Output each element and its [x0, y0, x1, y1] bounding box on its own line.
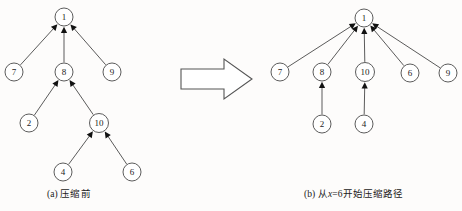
arrowhead-4-to-10 — [87, 131, 93, 138]
node-9: 9 — [439, 64, 457, 82]
node-label-1: 1 — [62, 12, 67, 22]
node-label-8: 8 — [320, 67, 325, 77]
node-6: 6 — [401, 64, 419, 82]
transition-arrow-layer — [181, 59, 252, 99]
node-2: 2 — [313, 115, 331, 133]
node-label-9: 9 — [446, 68, 451, 78]
node-8: 8 — [313, 63, 331, 81]
figure-canvas: 178921046178106924 — [0, 0, 462, 211]
node-label-1: 1 — [362, 13, 367, 23]
node-label-2: 2 — [320, 119, 325, 129]
node-label-7: 7 — [12, 67, 17, 77]
node-label-6: 6 — [130, 167, 135, 177]
edge-10-to-8 — [72, 84, 93, 115]
node-4: 4 — [54, 163, 72, 181]
caption-panel-b: (b) 从x=6开始压缩路径 — [304, 186, 403, 200]
arrowhead-2-to-8 — [52, 80, 58, 87]
node-6: 6 — [123, 163, 141, 181]
node-10: 10 — [356, 63, 375, 82]
arrowhead-8-to-1 — [61, 27, 67, 33]
node-2: 2 — [20, 114, 38, 132]
node-label-2: 2 — [27, 118, 32, 128]
edge-9-to-1 — [74, 28, 106, 65]
node-10: 10 — [90, 114, 109, 133]
node-label-10: 10 — [361, 67, 371, 77]
node-1: 1 — [355, 9, 373, 27]
node-1: 1 — [55, 8, 73, 26]
edge-6-to-1 — [373, 29, 404, 66]
node-8: 8 — [55, 63, 73, 81]
arrowhead-10-to-8 — [70, 80, 76, 87]
node-label-6: 6 — [408, 68, 413, 78]
edge-4-to-10 — [364, 87, 365, 114]
node-label-10: 10 — [95, 118, 105, 128]
edge-10-to-1 — [364, 33, 365, 62]
node-9: 9 — [103, 63, 121, 81]
caption-b-pre: 从 — [318, 189, 328, 199]
node-label-4: 4 — [61, 167, 66, 177]
arrowhead-2-to-8 — [319, 82, 325, 88]
edge-7-to-1 — [20, 28, 54, 65]
caption-panel-a: (a) 压缩前 — [47, 186, 91, 200]
node-4: 4 — [355, 115, 373, 133]
caption-b-post: =6开始压缩路径 — [332, 189, 403, 199]
edge-6-to-10 — [107, 135, 126, 164]
node-label-4: 4 — [362, 119, 367, 129]
node-7: 7 — [5, 63, 23, 81]
node-label-7: 7 — [278, 67, 283, 77]
caption-b-prefix: (b) — [304, 189, 318, 199]
edge-4-to-10 — [69, 135, 90, 164]
transition-right-arrow-icon — [181, 59, 252, 99]
edge-8-to-1 — [328, 29, 355, 64]
arrowhead-6-to-10 — [105, 132, 111, 139]
node-label-9: 9 — [110, 67, 115, 77]
edge-2-to-8 — [34, 84, 55, 115]
node-label-8: 8 — [62, 67, 67, 77]
path-compression-figure: 178921046178106924 (a) 压缩前 (b) 从x=6开始压缩路… — [0, 0, 462, 211]
arrowhead-10-to-1 — [361, 28, 367, 34]
edge-9-to-1 — [376, 26, 440, 68]
node-7: 7 — [271, 63, 289, 81]
arrowhead-4-to-10 — [362, 82, 368, 88]
